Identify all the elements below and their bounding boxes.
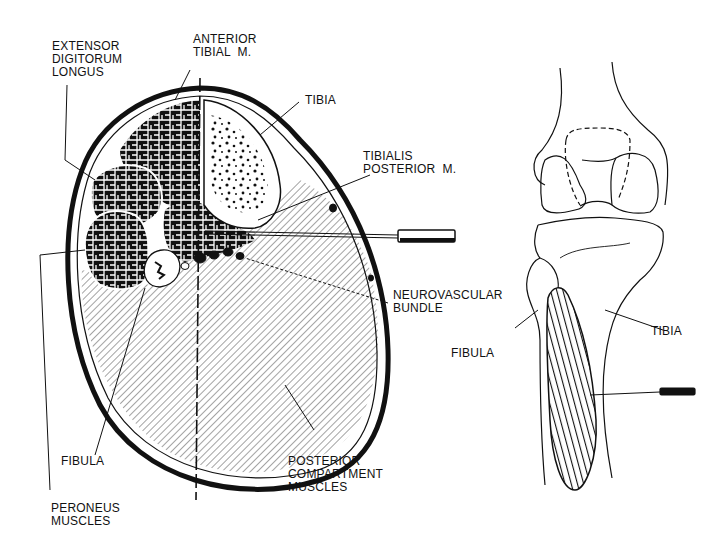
femur-outline: [534, 68, 562, 185]
label-fibula-cross-section: FIBULA: [61, 455, 104, 468]
fibula-outline: [527, 258, 545, 485]
patella-dashed: [565, 128, 630, 205]
label-tibialis-posterior: TIBIALIS POSTERIOR M.: [363, 150, 456, 176]
label-posterior-compartment: POSTERIOR COMPARTMENT MUSCLES: [288, 455, 383, 494]
label-anterior-tibial: ANTERIOR TIBIAL M.: [193, 33, 257, 59]
label-fibula-knee-view: FIBULA: [451, 347, 494, 360]
label-neurovascular-bundle: NEUROVASCULAR BUNDLE: [393, 289, 503, 315]
knee-front-view: [515, 62, 695, 490]
label-tibia: TIBIA: [305, 94, 336, 107]
muscle-belly: [547, 288, 596, 490]
label-peroneus-muscles: PERONEUS MUSCLES: [51, 502, 120, 528]
label-extensor-digitorum-longus: EXTENSOR DIGITORUM LONGUS: [52, 40, 122, 79]
anatomy-figure: EXTENSOR DIGITORUM LONGUS ANTERIOR TIBIA…: [0, 0, 721, 539]
leg-cross-section: [40, 18, 455, 500]
medial-condyle: [611, 154, 658, 214]
label-tibia-knee-view: TIBIA: [651, 325, 682, 338]
tibia-marrow: [210, 115, 268, 213]
peroneus-muscles: [85, 211, 149, 289]
